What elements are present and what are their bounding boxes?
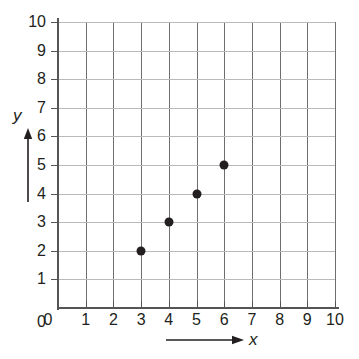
x-axis-tick-label: 2: [98, 312, 128, 328]
y-axis-tick: [51, 279, 58, 280]
y-axis-tick: [51, 222, 58, 223]
data-point: [137, 246, 146, 255]
x-axis-label: x: [249, 330, 258, 350]
x-axis-tick: [252, 301, 253, 308]
x-axis-tick: [197, 301, 198, 308]
x-axis-tick: [280, 301, 281, 308]
x-axis-tick: [113, 301, 114, 308]
gridline-horizontal: [58, 165, 335, 166]
scatter-plot-figure: 012345678910012345678910 y x: [0, 0, 359, 359]
x-axis-line: [57, 307, 339, 309]
gridline-horizontal: [58, 51, 335, 52]
y-axis-tick: [51, 51, 58, 52]
y-axis-tick: [51, 251, 58, 252]
y-axis-tick-label: 1: [16, 271, 46, 287]
y-axis-tick: [51, 194, 58, 195]
x-axis-tick: [86, 301, 87, 308]
x-axis-tick: [169, 301, 170, 308]
gridline-horizontal: [58, 136, 335, 137]
data-point: [220, 161, 229, 170]
x-axis-tick: [307, 301, 308, 308]
gridline-horizontal: [58, 279, 335, 280]
x-axis-arrow-icon: [166, 334, 244, 346]
x-axis-tick: [335, 301, 336, 308]
data-point: [164, 218, 173, 227]
y-axis-line: [57, 18, 59, 310]
x-axis-tick-label: 5: [182, 312, 212, 328]
x-axis-tick-label: 3: [126, 312, 156, 328]
gridline-horizontal: [58, 108, 335, 109]
x-axis-tick: [141, 301, 142, 308]
y-axis-tick: [51, 136, 58, 137]
y-axis-arrow-icon: [22, 128, 34, 203]
x-axis-tick-label: 6: [209, 312, 239, 328]
x-axis-tick-label: 7: [237, 312, 267, 328]
x-axis-tick: [224, 301, 225, 308]
y-axis-tick-label: 3: [16, 214, 46, 230]
y-axis-tick: [51, 79, 58, 80]
y-axis-tick-label: 8: [16, 71, 46, 87]
x-axis-tick-label: 0: [33, 312, 63, 328]
plot-area: [58, 22, 335, 308]
x-axis-tick-label: 9: [292, 312, 322, 328]
x-axis-tick-label: 1: [71, 312, 101, 328]
data-point: [192, 189, 201, 198]
y-axis-label: y: [13, 106, 22, 126]
y-axis-tick-label: 9: [16, 43, 46, 59]
y-axis-tick-label: 10: [16, 14, 46, 30]
x-axis-tick-label: 10: [320, 312, 350, 328]
gridline-horizontal: [58, 222, 335, 223]
x-axis-tick-label: 8: [265, 312, 295, 328]
gridline-vertical: [335, 22, 336, 308]
x-axis-tick-label: 4: [154, 312, 184, 328]
gridline-horizontal: [58, 79, 335, 80]
gridline-horizontal: [58, 22, 335, 23]
gridline-horizontal: [58, 251, 335, 252]
y-axis-tick-label: 2: [16, 243, 46, 259]
y-axis-tick: [51, 22, 58, 23]
y-axis-tick: [51, 108, 58, 109]
y-axis-tick: [51, 165, 58, 166]
